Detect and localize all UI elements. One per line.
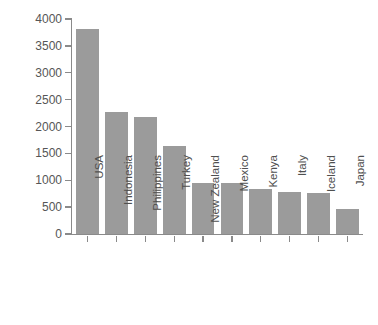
y-axis-tick-label: 2000 — [2, 121, 62, 133]
x-axis-tick — [116, 236, 117, 242]
y-axis-tick — [65, 153, 71, 154]
y-axis-tick-label: 1500 — [2, 147, 62, 159]
x-axis-label-italy: Italy — [295, 155, 309, 245]
bar-chart: Installed Capacity (MW) 0500100015002000… — [0, 0, 378, 325]
x-axis-tick — [145, 236, 146, 242]
y-axis-tick — [65, 180, 71, 181]
y-axis-tick-label: 1000 — [2, 174, 62, 186]
y-axis-tick-label: 500 — [2, 201, 62, 213]
x-axis-tick — [260, 236, 261, 242]
y-axis-tick — [65, 45, 71, 46]
x-axis-tick — [347, 236, 348, 242]
x-axis-label-mexico: Mexico — [237, 155, 251, 245]
y-axis-tick — [65, 72, 71, 73]
x-axis-label-indonesia: Indonesia — [121, 155, 135, 245]
y-axis-tick — [65, 99, 71, 100]
y-axis-tick-label: 2500 — [2, 94, 62, 106]
x-axis-label-new-zealand: New Zealand — [208, 155, 222, 245]
y-axis-tick-label: 3000 — [2, 67, 62, 79]
x-axis-label-japan: Japan — [353, 155, 367, 245]
y-axis-tick-label: 0 — [2, 228, 62, 240]
x-axis-tick — [289, 236, 290, 242]
x-axis-tick — [202, 236, 203, 242]
x-axis-label-philippines: Philippines — [150, 155, 164, 245]
x-axis-tick — [87, 236, 88, 242]
x-axis-label-usa: USA — [92, 155, 106, 245]
x-axis-tick — [318, 236, 319, 242]
x-axis-label-iceland: Iceland — [324, 155, 338, 245]
y-axis-tick — [65, 126, 71, 127]
x-axis-tick — [231, 236, 232, 242]
y-axis-tick — [65, 233, 71, 234]
y-axis-tick-label: 3500 — [2, 40, 62, 52]
y-axis-tick-label: 4000 — [2, 13, 62, 25]
x-axis-tick — [174, 236, 175, 242]
y-axis-tick — [65, 18, 71, 19]
x-axis-label-turkey: Turkey — [179, 155, 193, 245]
y-axis-tick — [65, 206, 71, 207]
x-axis-label-kenya: Kenya — [266, 155, 280, 245]
